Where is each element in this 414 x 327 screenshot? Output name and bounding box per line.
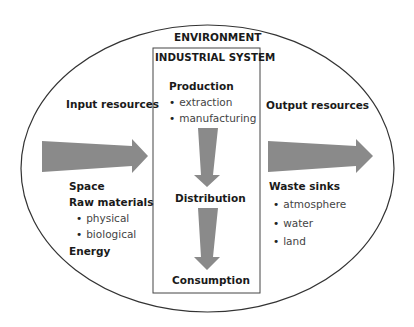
production-label: Production [169, 80, 234, 92]
environment-label: ENVIRONMENT [174, 31, 261, 43]
production-item-extraction: extraction [169, 96, 232, 108]
energy-label: Energy [69, 245, 110, 257]
industrial-system-title: INDUSTRIAL SYSTEM [155, 51, 275, 63]
production-item-manufacturing: manufacturing [169, 112, 256, 124]
raw-materials-item-physical: physical [76, 212, 129, 224]
waste-sinks-label: Waste sinks [269, 180, 340, 192]
distribution-label: Distribution [175, 192, 246, 204]
distribution-to-consumption-arrow [194, 208, 220, 270]
waste-sink-item-water: water [273, 217, 313, 229]
raw-materials-label: Raw materials [69, 196, 153, 208]
input-resources-label: Input resources [66, 98, 159, 110]
production-to-distribution-arrow [194, 128, 220, 187]
consumption-label: Consumption [172, 274, 250, 286]
waste-sink-item-atmosphere: atmosphere [273, 198, 346, 210]
input-arrow [42, 139, 148, 173]
space-label: Space [69, 180, 105, 192]
waste-sink-item-land: land [273, 235, 306, 247]
output-resources-label: Output resources [266, 99, 369, 111]
output-arrow [268, 139, 373, 173]
raw-materials-item-biological: biological [76, 228, 136, 240]
